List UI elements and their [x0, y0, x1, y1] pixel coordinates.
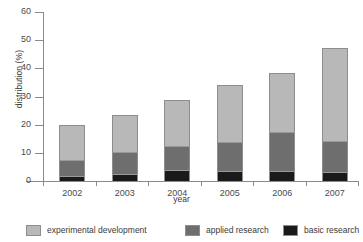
bar-segment-applied-research[interactable] [164, 146, 190, 170]
y-tick: 60 [35, 12, 43, 13]
x-tick [201, 181, 202, 186]
x-tick [253, 181, 254, 186]
y-tick: 40 [35, 68, 43, 69]
legend-label: experimental development [47, 225, 147, 235]
bar-segment-experimental-development[interactable] [112, 115, 138, 152]
legend-swatch-icon [283, 225, 298, 236]
x-tick [148, 181, 149, 186]
legend-swatch-icon [185, 225, 200, 236]
bar-segment-applied-research[interactable] [112, 152, 138, 174]
legend-item[interactable]: applied research [185, 225, 269, 236]
y-tick: 30 [35, 97, 43, 98]
bar-segment-experimental-development[interactable] [269, 73, 295, 132]
x-axis-line [26, 181, 358, 182]
bar-segment-basic-research[interactable] [59, 176, 85, 181]
bar-segment-basic-research[interactable] [217, 171, 243, 181]
x-tick [306, 181, 307, 186]
y-tick: 10 [35, 153, 43, 154]
bar-stack[interactable] [217, 85, 243, 181]
bar-segment-experimental-development[interactable] [322, 48, 348, 141]
y-tick-label: 40 [21, 62, 31, 72]
x-tick [43, 181, 44, 186]
bar-segment-applied-research[interactable] [322, 141, 348, 172]
y-tick: 0 [35, 181, 43, 182]
y-tick-label: 30 [21, 91, 31, 101]
bar-stack[interactable] [322, 48, 348, 181]
legend-item[interactable]: basic research [283, 225, 359, 236]
legend-swatch-icon [26, 225, 41, 236]
bar-stack[interactable] [269, 73, 295, 181]
y-tick-label: 50 [21, 34, 31, 44]
legend-label: basic research [304, 225, 359, 235]
plot-area: 0102030405060 200220032004200520062007 [43, 12, 358, 181]
bar-stack[interactable] [112, 115, 138, 181]
x-tick [358, 181, 359, 186]
y-tick: 20 [35, 125, 43, 126]
chart-legend: experimental developmentapplied research… [0, 218, 363, 242]
bar-segment-basic-research[interactable] [112, 174, 138, 181]
y-tick-label: 0 [26, 175, 31, 185]
bar-segment-experimental-development[interactable] [59, 125, 85, 160]
bar-stack[interactable] [59, 125, 85, 181]
bar-segment-basic-research[interactable] [269, 171, 295, 181]
stacked-bar-chart: distribution (%) 0102030405060 200220032… [0, 0, 363, 242]
bar-segment-basic-research[interactable] [322, 172, 348, 181]
y-tick-label: 20 [21, 119, 31, 129]
bar-segment-applied-research[interactable] [59, 160, 85, 176]
legend-item[interactable]: experimental development [26, 225, 147, 236]
legend-label: applied research [206, 225, 269, 235]
bar-segment-basic-research[interactable] [164, 170, 190, 181]
x-axis-title: year [0, 194, 363, 204]
x-tick [96, 181, 97, 186]
bar-stack[interactable] [164, 100, 190, 181]
y-axis-line [43, 12, 44, 181]
y-tick-label: 10 [21, 147, 31, 157]
bar-segment-experimental-development[interactable] [217, 85, 243, 142]
bar-segment-applied-research[interactable] [269, 132, 295, 171]
bar-segment-applied-research[interactable] [217, 142, 243, 171]
y-tick: 50 [35, 40, 43, 41]
bar-segment-experimental-development[interactable] [164, 100, 190, 146]
y-tick-label: 60 [21, 6, 31, 16]
